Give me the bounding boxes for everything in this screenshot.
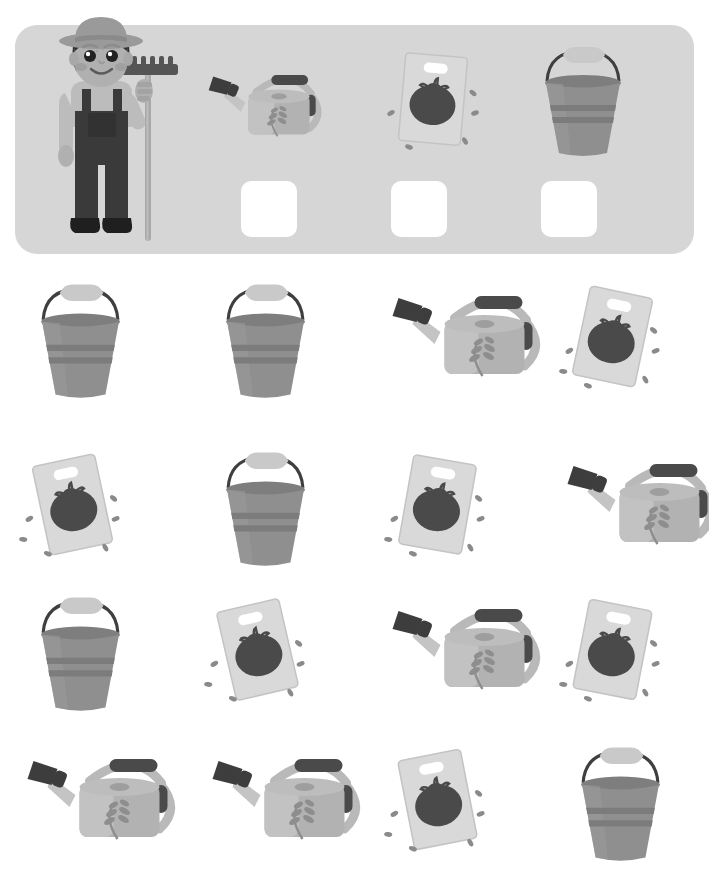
watering-can-icon (380, 272, 555, 392)
watering-can-icon (380, 585, 555, 705)
farmer-character (35, 15, 185, 254)
answer-box-watering-can[interactable] (241, 181, 297, 237)
seed-packet-icon (200, 585, 315, 715)
prompt-item-seed-packet (377, 37, 487, 166)
bucket-icon (15, 585, 145, 720)
watering-can-icon (15, 735, 190, 855)
answer-box-bucket[interactable] (541, 181, 597, 237)
seed-packet-icon (380, 440, 495, 570)
seed-packet-icon (555, 272, 670, 402)
prompt-item-bucket (525, 35, 640, 169)
bucket-icon (200, 272, 330, 407)
bucket-icon (555, 735, 685, 870)
watering-can-icon (200, 735, 375, 855)
answer-box-seed-packet[interactable] (391, 181, 447, 237)
seed-packet-icon (555, 585, 670, 715)
worksheet-page (0, 0, 709, 877)
seed-packet-icon (15, 440, 130, 570)
prompt-banner (15, 25, 694, 254)
bucket-icon (15, 272, 145, 407)
bucket-icon (200, 440, 330, 575)
prompt-item-watering-can (201, 55, 331, 154)
watering-can-icon (555, 440, 709, 560)
seed-packet-icon (380, 735, 495, 865)
